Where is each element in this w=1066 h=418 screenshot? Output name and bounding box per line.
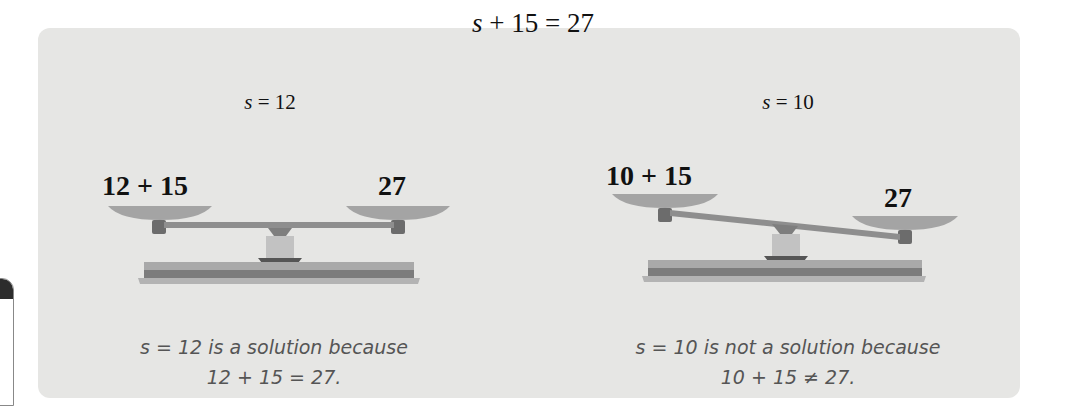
caption-right: s = 10 is not a solution because 10 + 15… xyxy=(578,332,998,392)
case-value: = 10 xyxy=(770,90,813,114)
side-tab-decoration xyxy=(0,278,14,406)
case-label-left: s = 12 xyxy=(170,90,370,115)
left-pan-label-balanced: 12 + 15 xyxy=(102,170,188,202)
case-label-right: s = 10 xyxy=(688,90,888,115)
caption-right-line1: s = 10 is not a solution because xyxy=(578,332,998,362)
equation-rest: + 15 = 27 xyxy=(483,8,594,38)
equation-title: s + 15 = 27 xyxy=(0,8,1066,39)
balanced-scale-icon xyxy=(100,200,460,290)
right-pan-label-balanced: 27 xyxy=(378,170,406,202)
caption-left-line2: 12 + 15 = 27. xyxy=(64,362,484,392)
unbalanced-scale-icon xyxy=(600,188,980,288)
caption-left-line1: s = 12 is a solution because xyxy=(64,332,484,362)
equation-variable: s xyxy=(472,8,483,38)
case-value: = 12 xyxy=(252,90,295,114)
caption-left: s = 12 is a solution because 12 + 15 = 2… xyxy=(64,332,484,392)
caption-right-line2: 10 + 15 ≠ 27. xyxy=(578,362,998,392)
